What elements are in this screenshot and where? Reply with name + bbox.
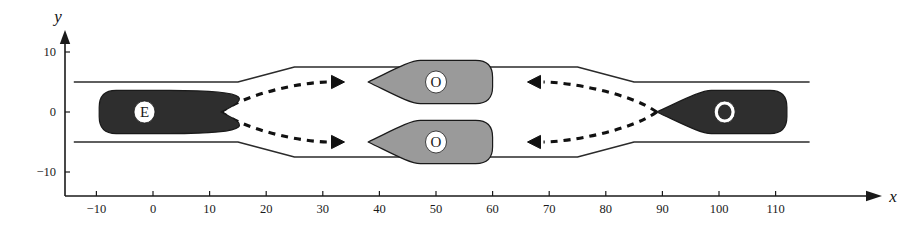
x-tick-label: 100 (710, 202, 729, 216)
trajectory-arrowhead (528, 135, 541, 148)
vehicle-label: O (431, 74, 442, 90)
x-tick-label: 90 (656, 202, 669, 216)
vehicle-ego: E (99, 90, 239, 133)
x-tick-label: 20 (260, 202, 273, 216)
x-tick-label: 50 (430, 202, 443, 216)
x-tick-label: 10 (203, 202, 216, 216)
trajectory-path (544, 82, 657, 112)
x-tick-label: 40 (373, 202, 386, 216)
x-tick-label: 80 (600, 202, 613, 216)
diagram-canvas: EOO −100102030405060708090100110100−10xy (0, 0, 908, 234)
trajectory-other-upper-branch (528, 75, 657, 112)
x-axis-arrow (866, 191, 882, 201)
road-scenario-diagram: EOO −100102030405060708090100110100−10xy (0, 0, 908, 234)
y-axis-label: y (52, 7, 62, 26)
x-tick-label: 110 (766, 202, 784, 216)
vehicle-label: O (431, 134, 442, 150)
y-axis-arrow (60, 30, 70, 44)
vehicle-other-right (657, 90, 787, 133)
vehicle-label-inner (718, 104, 732, 119)
vehicle-label: E (140, 104, 149, 120)
y-tick-label: 0 (50, 105, 56, 119)
trajectory-arrowhead (332, 135, 345, 148)
x-axis-label: x (888, 187, 897, 206)
vehicle-layer: EOO (99, 60, 787, 163)
x-tick-label: 70 (543, 202, 556, 216)
trajectory-other-lower-branch (528, 112, 657, 149)
trajectory-arrowhead (332, 75, 345, 88)
x-tick-label: 30 (317, 202, 330, 216)
y-tick-label: −10 (36, 165, 56, 179)
trajectory-arrowhead (528, 75, 541, 88)
x-tick-label: 60 (486, 202, 499, 216)
y-tick-label: 10 (44, 45, 57, 59)
trajectory-path (544, 112, 657, 142)
x-tick-label: 0 (150, 202, 156, 216)
x-tick-label: −10 (87, 202, 107, 216)
vehicle-body (99, 90, 239, 133)
